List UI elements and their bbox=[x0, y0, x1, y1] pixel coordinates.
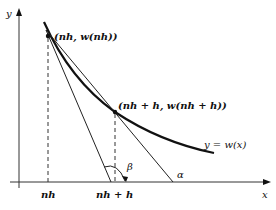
diagram-canvas: y x (nh, w(nh)) (nh + h, w(nh + h)) y = … bbox=[0, 0, 276, 210]
x-axis-arrow-icon bbox=[263, 179, 271, 185]
angle-alpha-label: α bbox=[177, 169, 184, 180]
point-nh bbox=[46, 34, 50, 38]
point-label-nh-plus-h: (nh + h, w(nh + h)) bbox=[118, 100, 227, 112]
angle-beta-arrow-icon bbox=[122, 176, 128, 182]
y-axis-label: y bbox=[5, 8, 12, 19]
point-label-nh: (nh, w(nh)) bbox=[54, 31, 118, 43]
y-axis-arrow-icon bbox=[16, 8, 22, 16]
curve-label: y = w(x) bbox=[203, 139, 246, 150]
angle-beta-label: β bbox=[126, 161, 133, 172]
x-tick-label-nh: nh bbox=[41, 189, 56, 200]
x-axis-label: x bbox=[262, 189, 268, 200]
tangent-line-nh bbox=[46, 30, 111, 182]
x-tick-label-nh-plus-h: nh + h bbox=[96, 189, 133, 200]
point-nh-plus-h bbox=[113, 110, 117, 114]
